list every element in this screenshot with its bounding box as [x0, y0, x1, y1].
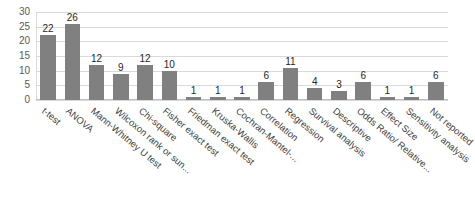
y-axis-tick-label: 5 [2, 81, 30, 89]
bar-value-label: 1 [181, 86, 205, 96]
bar-value-label: 1 [230, 86, 254, 96]
y-axis-tick-label: 30 [2, 8, 30, 16]
bar-slot: 11 [278, 12, 302, 100]
bar[interactable] [234, 97, 250, 100]
plot-area: 22261291210111611436116 [36, 12, 448, 100]
bar[interactable] [210, 97, 226, 100]
bar-slot: 1 [400, 12, 424, 100]
bar[interactable] [113, 74, 129, 100]
bar[interactable] [380, 97, 396, 100]
bar-slot: 9 [109, 12, 133, 100]
bar-slot: 6 [424, 12, 448, 100]
bar-slot: 1 [230, 12, 254, 100]
bar-value-label: 1 [375, 86, 399, 96]
bar-value-label: 6 [254, 71, 278, 81]
y-axis-tick-label: 10 [2, 67, 30, 75]
y-axis-tick-label: 25 [2, 23, 30, 31]
bar-value-label: 1 [400, 86, 424, 96]
bar[interactable] [404, 97, 420, 100]
bar-slot: 6 [254, 12, 278, 100]
bar[interactable] [65, 24, 81, 100]
bar-value-label: 4 [303, 77, 327, 87]
bar-value-label: 12 [133, 54, 157, 64]
bar-slot: 12 [133, 12, 157, 100]
bar-slot: 22 [36, 12, 60, 100]
bar[interactable] [186, 97, 202, 100]
bar-value-label: 22 [36, 24, 60, 34]
x-axis-labels: t-testANOVAMann-Whitney U testWilcoxon r… [36, 101, 448, 219]
bar-slot: 3 [327, 12, 351, 100]
bar-slot: 26 [60, 12, 84, 100]
bar-slot: 1 [181, 12, 205, 100]
bar-value-label: 12 [84, 54, 108, 64]
bar[interactable] [258, 82, 274, 100]
bar-value-label: 26 [60, 13, 84, 23]
y-axis-tick-label: 0 [2, 96, 30, 104]
bar-value-label: 10 [157, 60, 181, 70]
bar[interactable] [331, 91, 347, 100]
y-axis: 051015202530 [0, 8, 33, 100]
bar-value-label: 3 [327, 80, 351, 90]
bar[interactable] [355, 82, 371, 100]
bar-value-label: 6 [351, 71, 375, 81]
bar-slot: 4 [303, 12, 327, 100]
bar[interactable] [40, 35, 56, 100]
bar-slot: 1 [206, 12, 230, 100]
x-axis-tick-label: t-test [40, 105, 63, 127]
bar-slot: 10 [157, 12, 181, 100]
bar-value-label: 11 [278, 57, 302, 67]
y-axis-tick-label: 15 [2, 52, 30, 60]
bar[interactable] [428, 82, 444, 100]
bar[interactable] [307, 88, 323, 100]
bar-value-label: 9 [109, 63, 133, 73]
bar-slot: 6 [351, 12, 375, 100]
bar[interactable] [162, 71, 178, 100]
bar-value-label: 1 [206, 86, 230, 96]
bar[interactable] [137, 65, 153, 100]
bar-value-label: 6 [424, 71, 448, 81]
bar[interactable] [283, 68, 299, 100]
bar-slot: 1 [375, 12, 399, 100]
bar[interactable] [89, 65, 105, 100]
y-axis-tick-label: 20 [2, 37, 30, 45]
bar-slot: 12 [84, 12, 108, 100]
bar-series: 22261291210111611436116 [36, 12, 448, 100]
